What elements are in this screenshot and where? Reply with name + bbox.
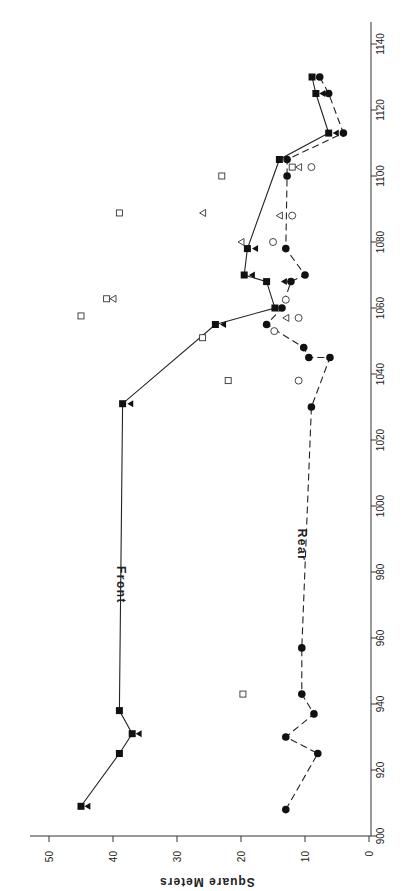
open-circle-marker bbox=[271, 328, 278, 335]
open-square-marker bbox=[104, 296, 110, 302]
rear-marker-filled-circle bbox=[314, 750, 322, 758]
open-circle-marker bbox=[308, 164, 315, 171]
front-marker-filled-square bbox=[241, 272, 248, 279]
rear-marker-filled-circle bbox=[298, 690, 306, 698]
front-marker-filled-square bbox=[309, 74, 316, 81]
year-tick-label: 1120 bbox=[375, 99, 386, 121]
open-circle-marker bbox=[295, 314, 302, 321]
year-tick-label: 1000 bbox=[375, 494, 386, 517]
open-circle-marker bbox=[282, 296, 289, 303]
year-tick-label: 1020 bbox=[375, 428, 386, 451]
value-tick-label: 40 bbox=[108, 851, 119, 863]
open-circle-marker bbox=[295, 377, 302, 384]
front-marker-filled-square bbox=[78, 803, 85, 810]
open-triangle-marker bbox=[200, 209, 206, 216]
year-tick-label: 940 bbox=[375, 695, 386, 712]
rear-marker-filled-circle bbox=[301, 271, 309, 279]
rear-marker-filled-circle bbox=[298, 644, 306, 652]
rear-marker-filled-circle bbox=[316, 73, 324, 81]
front-marker-filled-square bbox=[263, 278, 270, 285]
front-series-label: Front bbox=[114, 566, 128, 604]
front-marker-filled-square bbox=[212, 321, 219, 328]
rear-series-line bbox=[267, 77, 344, 810]
year-tick-label: 980 bbox=[375, 563, 386, 580]
open-square-marker bbox=[200, 335, 206, 341]
year-tick-label: 1040 bbox=[375, 362, 386, 385]
year-tick-label: 920 bbox=[375, 761, 386, 778]
value-tick-label: 10 bbox=[300, 851, 311, 863]
year-tick-label: 900 bbox=[375, 827, 386, 844]
open-triangle-marker bbox=[296, 164, 302, 171]
front-marker-filled-square bbox=[129, 730, 136, 737]
open-circle-marker bbox=[270, 239, 277, 246]
year-tick-label: 1080 bbox=[375, 230, 386, 253]
rear-marker-filled-circle bbox=[308, 403, 316, 411]
rear-marker-filled-circle bbox=[282, 245, 290, 253]
rear-marker-filled-circle bbox=[283, 172, 291, 180]
open-square-marker bbox=[289, 164, 295, 170]
front-marker-filled-square bbox=[271, 305, 278, 312]
rear-marker-filled-circle bbox=[263, 321, 271, 329]
rear-marker-filled-circle bbox=[282, 733, 290, 741]
rear-marker-filled-circle bbox=[325, 90, 333, 98]
filled-triangle-marker bbox=[333, 130, 339, 137]
open-square-marker bbox=[78, 313, 84, 319]
rear-marker-filled-circle bbox=[305, 354, 313, 362]
rear-marker-filled-circle bbox=[310, 710, 318, 718]
value-tick-label: 0 bbox=[364, 851, 375, 857]
open-triangle-marker bbox=[283, 314, 289, 321]
front-marker-filled-square bbox=[116, 750, 123, 757]
rear-marker-filled-circle bbox=[326, 354, 334, 362]
value-ticks: 01020304050 bbox=[44, 836, 375, 862]
rear-marker-filled-circle bbox=[300, 344, 308, 352]
year-tick-label: 960 bbox=[375, 629, 386, 646]
filled-triangle-marker bbox=[281, 278, 287, 285]
filled-triangle-marker bbox=[127, 400, 133, 407]
front-marker-filled-square bbox=[312, 90, 319, 97]
front-series-line bbox=[81, 77, 329, 806]
y-axis-title: Square Meters bbox=[159, 875, 255, 889]
front-marker-filled-square bbox=[244, 245, 251, 252]
rear-marker-filled-circle bbox=[340, 129, 348, 137]
front-marker-filled-square bbox=[119, 400, 126, 407]
area-chart-rotated: 9009209409609801000102010401060108011001… bbox=[0, 0, 416, 891]
rear-series-label: Rear bbox=[295, 529, 309, 562]
open-square-marker bbox=[225, 378, 231, 384]
rear-marker-filled-circle bbox=[282, 806, 290, 814]
year-ticks: 9009209409609801000102010401060108011001… bbox=[371, 33, 386, 845]
front-marker-filled-square bbox=[325, 130, 332, 137]
open-circle-marker bbox=[289, 212, 296, 219]
value-tick-label: 50 bbox=[44, 851, 55, 863]
value-tick-label: 30 bbox=[172, 851, 183, 863]
rear-marker-filled-circle bbox=[278, 304, 286, 312]
filled-triangle-marker bbox=[319, 90, 325, 97]
value-tick-label: 20 bbox=[236, 851, 247, 863]
filled-triangle-marker bbox=[136, 730, 142, 737]
rear-marker-filled-circle bbox=[287, 278, 295, 286]
filled-triangle-marker bbox=[252, 245, 258, 252]
open-square-marker bbox=[219, 173, 225, 179]
series-lines bbox=[81, 77, 343, 810]
open-triangle-marker bbox=[276, 212, 282, 219]
front-marker-filled-square bbox=[276, 156, 283, 163]
axes: 9009209409609801000102010401060108011001… bbox=[30, 22, 386, 889]
rear-marker-filled-circle bbox=[283, 156, 291, 164]
open-triangle-marker bbox=[110, 295, 116, 302]
open-square-marker bbox=[240, 691, 246, 697]
year-tick-label: 1140 bbox=[375, 33, 386, 55]
year-tick-label: 1100 bbox=[375, 165, 386, 187]
open-square-marker bbox=[116, 210, 122, 216]
front-marker-filled-square bbox=[116, 707, 123, 714]
series-markers bbox=[78, 73, 348, 813]
open-triangle-marker bbox=[238, 239, 244, 246]
year-tick-label: 1060 bbox=[375, 296, 386, 319]
filled-triangle-marker bbox=[84, 803, 90, 810]
